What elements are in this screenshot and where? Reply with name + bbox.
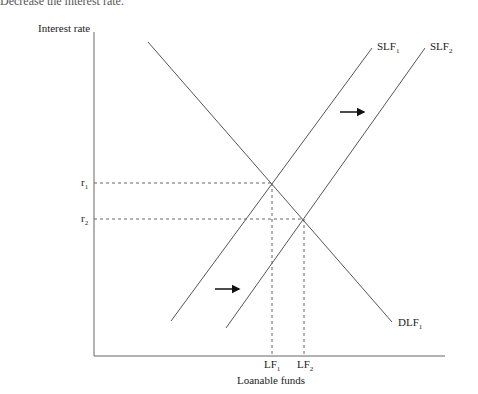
slf1-label: SLF1	[377, 40, 399, 55]
slf2-label: SLF2	[430, 40, 452, 55]
y-axis-label: Interest rate	[38, 22, 90, 34]
r2-label: r2	[81, 212, 88, 227]
slf2-curve	[226, 48, 425, 328]
loanable-funds-diagram	[0, 0, 478, 394]
r1-label: r1	[81, 176, 88, 191]
x-axis-label: Loanable funds	[237, 374, 305, 386]
dlf1-curve	[148, 42, 392, 322]
lf2-label: LF2	[297, 358, 313, 373]
dlf1-label: DLF1	[398, 316, 422, 331]
lf1-label: LF1	[264, 358, 280, 373]
